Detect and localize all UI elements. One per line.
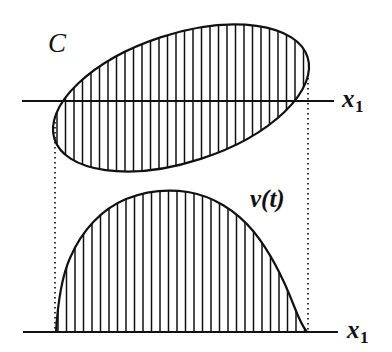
axis-label-x1-bottom-subscript: 1	[360, 328, 369, 347]
lower-panel-curve-vt	[23, 185, 338, 333]
curve-label-vt: v(t)	[250, 186, 285, 211]
axis-label-x1-top-var: x	[342, 85, 355, 112]
region-c-outline	[35, 0, 328, 200]
axis-label-x1-top: x1	[342, 86, 364, 115]
figure-container: C v(t) x1 x1	[0, 0, 392, 352]
axis-label-x1-bottom: x1	[347, 317, 369, 346]
region-c-hatching	[57, 20, 304, 180]
region-label-c: C	[48, 30, 66, 57]
upper-panel-region-c	[22, 0, 334, 200]
axis-label-x1-bottom-var: x	[347, 316, 360, 343]
axis-label-x1-top-subscript: 1	[355, 97, 364, 116]
